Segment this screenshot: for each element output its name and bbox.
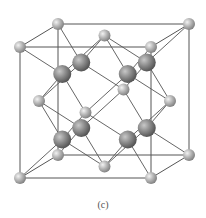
small-atom	[14, 41, 26, 53]
small-atom	[118, 84, 130, 96]
small-atom	[99, 30, 111, 42]
cube-edge	[20, 24, 58, 47]
large-atom	[53, 65, 71, 83]
small-atom	[80, 107, 92, 119]
crystal-structure-diagram	[0, 0, 206, 195]
large-atom	[53, 131, 71, 149]
cube-edge	[151, 155, 189, 178]
small-atom	[145, 172, 157, 184]
large-atom	[138, 119, 156, 137]
large-atom	[72, 54, 90, 72]
small-atom	[33, 95, 45, 107]
cube-edge	[20, 155, 58, 178]
small-atom	[145, 41, 157, 53]
small-atom	[183, 18, 195, 30]
cube-edge	[151, 24, 189, 47]
small-atom	[183, 149, 195, 161]
small-atom	[14, 172, 26, 184]
figure-caption: (c)	[0, 199, 206, 210]
large-atom	[119, 131, 137, 149]
small-atom	[52, 18, 64, 30]
small-atom	[52, 149, 64, 161]
large-atom	[119, 65, 137, 83]
small-atom	[164, 95, 176, 107]
large-atom	[72, 119, 90, 137]
small-atom	[99, 161, 111, 173]
large-atom	[138, 54, 156, 72]
